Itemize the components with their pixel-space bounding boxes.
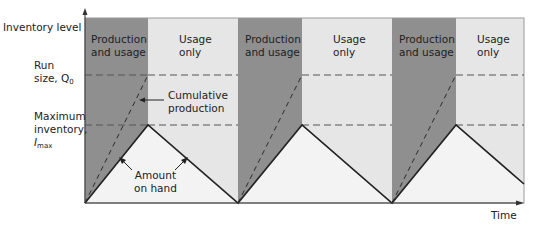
phase-label-usage-2: Usage only xyxy=(333,33,366,59)
amount-on-hand-label: Amount on hand xyxy=(134,169,177,195)
y-axis-arrow-icon xyxy=(83,8,88,15)
phase-label-usage-1: Usage only xyxy=(179,33,212,59)
max-inventory-label: Maximum inventory, Imax xyxy=(34,110,87,153)
phase-label-production-1: Production and usage xyxy=(91,33,147,59)
cumulative-production-label: Cumulative production xyxy=(168,89,228,115)
y-axis-label: Inventory level xyxy=(3,21,81,34)
phase-label-production-2: Production and usage xyxy=(245,33,301,59)
run-size-label: Run size, Q0 xyxy=(34,59,74,89)
x-axis-label: Time xyxy=(491,209,517,222)
phase-label-usage-3: Usage only xyxy=(477,33,510,59)
phase-label-production-3: Production and usage xyxy=(399,33,455,59)
